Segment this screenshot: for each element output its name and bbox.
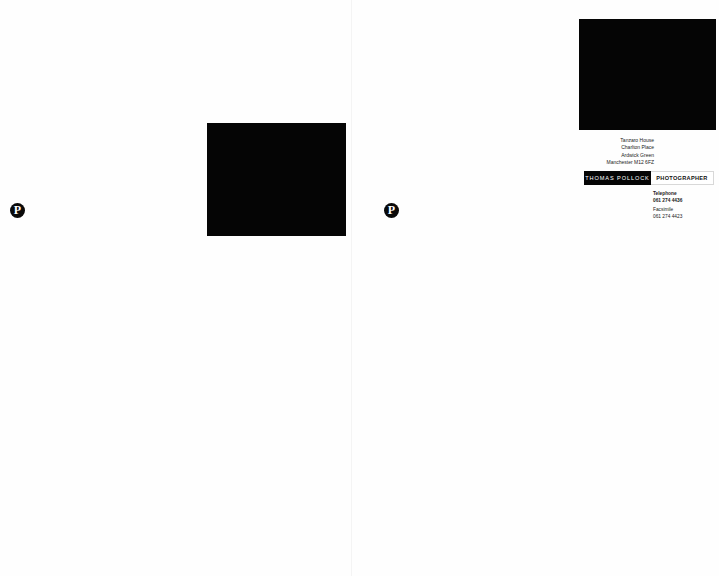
name-bar: THOMAS POLLOCK PHOTOGRAPHER: [584, 171, 714, 185]
photo-placeholder-left: [207, 123, 346, 236]
facsimile-number: 061 274 4423: [653, 214, 682, 221]
telephone-number: 061 274 4436: [653, 198, 682, 205]
address-line-3: Ardwick Green: [606, 152, 654, 159]
photo-placeholder-right: [579, 19, 716, 130]
address-block: Tanzaro House Charlton Place Ardwick Gre…: [606, 137, 654, 166]
left-page: [0, 0, 351, 576]
address-line-1: Tanzaro House: [606, 137, 654, 144]
page-divider: [351, 0, 352, 576]
tp-monogram-icon: P: [10, 203, 25, 218]
address-line-2: Charlton Place: [606, 144, 654, 151]
address-line-4: Manchester M12 6FZ: [606, 159, 654, 166]
tp-monogram-icon: P: [384, 203, 399, 218]
logo-glyph: P: [14, 203, 21, 217]
facsimile-block: Facsimile 061 274 4423: [653, 207, 682, 220]
photographer-name: THOMAS POLLOCK: [584, 171, 651, 185]
profession-title: PHOTOGRAPHER: [651, 171, 714, 185]
contact-block: Telephone 061 274 4436 Facsimile 061 274…: [653, 191, 682, 220]
logo-glyph: P: [388, 203, 395, 217]
telephone-block: Telephone 061 274 4436: [653, 191, 682, 204]
